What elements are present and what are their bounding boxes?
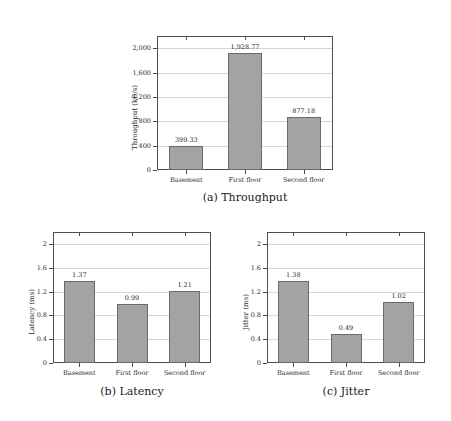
y-tick-label: 1.2 <box>221 289 261 296</box>
y-tick-label: 0 <box>221 360 261 367</box>
y-tick-label: 0.4 <box>221 336 261 343</box>
gridline <box>268 268 424 269</box>
bar-value-label: 1.38 <box>263 272 323 279</box>
figure-page: { "figure": { "panels": [ { "id": "a", "… <box>0 0 451 421</box>
gridline <box>268 244 424 245</box>
y-tick-mark <box>263 268 267 269</box>
y-tick-mark <box>263 244 267 245</box>
y-tick-label: 0.8 <box>221 312 261 319</box>
y-tick-mark <box>263 315 267 316</box>
y-tick-mark <box>263 339 267 340</box>
bar <box>383 302 414 363</box>
x-tick-mark <box>346 363 347 367</box>
bar <box>331 334 362 363</box>
bar-value-label: 1.02 <box>369 293 429 300</box>
y-tick-mark <box>263 292 267 293</box>
x-tick-mark-top <box>293 232 294 236</box>
x-tick-label: Second floor <box>364 370 434 377</box>
chart-jitter: 00.40.81.21.62 Jitter (ms) 1.380.491.02 … <box>0 0 451 421</box>
y-axis-title-jitter: Jitter (ms) <box>242 294 250 330</box>
x-tick-mark <box>293 363 294 367</box>
y-tick-mark <box>263 363 267 364</box>
bar <box>278 281 309 363</box>
x-tick-mark <box>399 363 400 367</box>
x-tick-mark-top <box>346 232 347 236</box>
y-tick-label: 1.6 <box>221 265 261 272</box>
x-tick-mark-top <box>399 232 400 236</box>
y-tick-label: 2 <box>221 241 261 248</box>
bar-value-label: 0.49 <box>316 325 376 332</box>
caption-jitter: (c) Jitter <box>246 385 446 398</box>
